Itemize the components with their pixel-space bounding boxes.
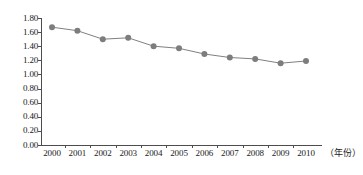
y-axis-tick	[38, 18, 41, 19]
x-axis-tick-label: 2009	[272, 148, 290, 158]
x-axis-tick	[90, 145, 91, 148]
y-axis-tick	[38, 117, 41, 118]
data-point-marker: 2004: 1.40	[151, 43, 157, 49]
x-axis-tick-label: 2010	[297, 148, 315, 158]
data-point-marker: 2007: 1.24	[227, 55, 233, 61]
y-axis-tick	[38, 145, 41, 146]
x-axis-tick	[293, 145, 294, 148]
data-point-marker: 2008: 1.22	[252, 56, 258, 62]
y-axis-tick	[38, 89, 41, 90]
data-point-marker: 2002: 1.50	[100, 36, 106, 42]
y-axis-tick	[38, 32, 41, 33]
x-axis-tick-label: 2008	[246, 148, 264, 158]
x-axis-tick	[243, 145, 244, 148]
series-line	[52, 27, 306, 63]
x-axis-tick-label: 2004	[145, 148, 163, 158]
x-axis-tick-labels: 2000200120022003200420052006200720082009…	[0, 148, 363, 164]
y-axis-tick	[38, 131, 41, 132]
line-chart: 0.000.200.400.600.801.001.201.401.601.80…	[0, 0, 363, 175]
x-axis-title: （年份）	[325, 148, 361, 158]
x-axis-tick	[65, 145, 66, 148]
y-axis-tick	[38, 103, 41, 104]
x-axis-tick	[268, 145, 269, 148]
data-point-marker: 2010: 1.19	[303, 58, 309, 64]
x-axis-tick	[116, 145, 117, 148]
series-markers: 2000: 1.672001: 1.622002: 1.502003: 1.52…	[49, 24, 309, 66]
x-axis-tick-label: 2000	[43, 148, 61, 158]
data-point-marker: 2003: 1.52	[125, 35, 131, 41]
x-axis-tick	[217, 145, 218, 148]
x-axis-tick-label: 2002	[94, 148, 112, 158]
x-axis-tick-label: 2007	[221, 148, 239, 158]
y-axis-tick	[38, 46, 41, 47]
data-point-marker: 2000: 1.67	[49, 24, 55, 30]
data-point-marker: 2009: 1.16	[278, 60, 284, 66]
y-axis-tick	[38, 74, 41, 75]
x-axis-tick	[166, 145, 167, 148]
data-point-marker: 2001: 1.62	[74, 28, 80, 34]
x-axis-tick	[141, 145, 142, 148]
x-axis-tick-label: 2006	[196, 148, 214, 158]
x-axis-tick	[192, 145, 193, 148]
x-axis-tick-label: 2001	[69, 148, 87, 158]
x-axis-tick-label: 2003	[119, 148, 137, 158]
data-point-marker: 2005: 1.37	[176, 45, 182, 51]
y-axis-tick	[38, 60, 41, 61]
x-axis-tick-label: 2005	[170, 148, 188, 158]
data-point-marker: 2006: 1.29	[201, 51, 207, 57]
